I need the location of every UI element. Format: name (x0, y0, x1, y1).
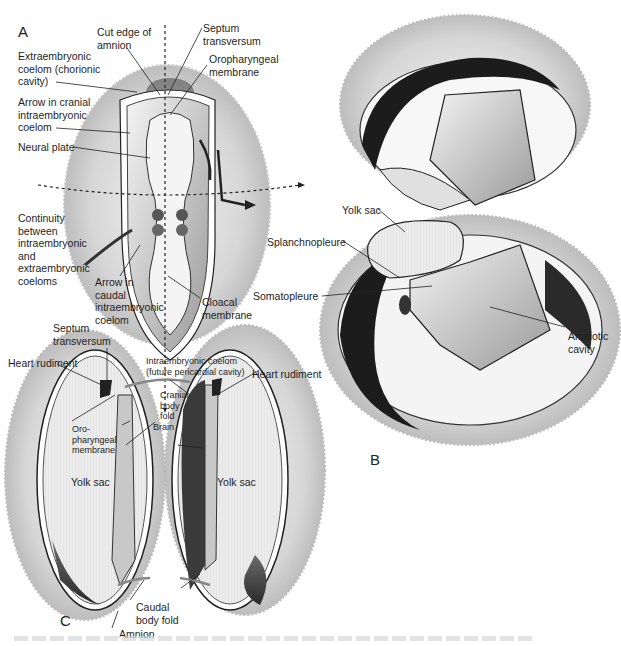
label-somatopleure: Somatopleure (253, 290, 318, 303)
label-heart-rudiment-right: Heart rudiment (252, 368, 321, 381)
label-septum-transversum-a: Septum transversum (203, 22, 261, 47)
label-caudal-body-fold: Caudal body fold (136, 601, 179, 626)
label-yolk-sac-c-right: Yolk sac (217, 476, 256, 489)
label-yolk-sac-b: Yolk sac (342, 204, 381, 217)
label-cut-edge-of-amnion: Cut edge of amnion (97, 26, 151, 51)
label-arrow-caudal-coelom: Arrow in caudal intraembryonic coelom (95, 276, 164, 326)
label-intraembryonic-coelom-pericardial: Intraembryonic coelom (future pericardia… (146, 356, 245, 377)
label-oropharyngeal-membrane-a: Oropharyngeal membrane (209, 53, 278, 78)
figure-caption-cropped (14, 636, 534, 641)
label-splanchnopleure: Splanchnopleure (267, 236, 346, 249)
panel-b-embryo (320, 15, 620, 445)
label-oropharyngeal-membrane-c: Oro- pharyngeal membrane (72, 424, 117, 456)
panel-label-a: A (18, 23, 28, 40)
label-brain: Brain (153, 422, 174, 433)
panel-label-b: B (370, 451, 380, 468)
label-cloacal-membrane: Cloacal membrane (202, 296, 252, 321)
label-extraembryonic-coelom: Extraembryonic coelom (chorionic cavity) (18, 50, 100, 88)
label-arrow-cranial-coelom: Arrow in cranial intraembryonic coelom (18, 96, 90, 134)
panel-label-c: C (60, 612, 71, 629)
label-heart-rudiment-left: Heart rudiment (8, 357, 77, 370)
label-septum-transversum-c: Septum transversum (53, 322, 111, 347)
label-amniotic-cavity: Amniotic cavity (568, 330, 608, 355)
label-continuity-coeloms: Continuity between intraembryonic and ex… (18, 212, 90, 287)
label-cranial-body-fold: Cranial body fold (160, 390, 189, 422)
label-neural-plate: Neural plate (18, 141, 75, 154)
label-yolk-sac-c-left: Yolk sac (71, 476, 110, 489)
